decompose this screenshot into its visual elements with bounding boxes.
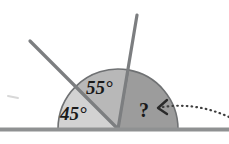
angle-label-55: 55° [86, 78, 113, 97]
angle-label-unknown: ? [139, 100, 149, 120]
angle-label-45: 45° [60, 104, 87, 123]
diagram-canvas [0, 0, 229, 144]
angle-diagram: 55° 45° ? [0, 0, 229, 144]
smudge-mark [8, 96, 18, 98]
